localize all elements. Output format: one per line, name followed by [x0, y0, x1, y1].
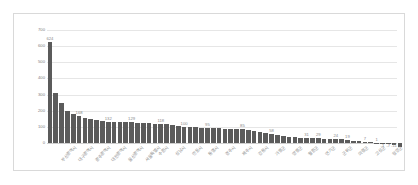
- x-axis-category-label: 경주시: [225, 145, 237, 157]
- x-axis-category-label: 철원군: [308, 145, 320, 157]
- bar: [53, 93, 58, 143]
- chart-frame: 0100200300400500600700 62416813212911810…: [13, 13, 405, 171]
- y-axis-tick-label: 500: [19, 60, 45, 64]
- bar: [246, 130, 251, 143]
- x-axis-category-label: 군위군: [341, 145, 353, 157]
- x-axis-category-label: 광주광역시: [94, 145, 112, 163]
- x-axis-category-label: 대전광역시: [110, 145, 128, 163]
- bar-value-label: 100: [176, 122, 192, 126]
- bar: [345, 140, 350, 143]
- bar: [88, 119, 93, 143]
- bar: [193, 127, 198, 143]
- x-axis-category-label: 제주시: [241, 145, 253, 157]
- bar: [147, 123, 152, 143]
- bar: [112, 122, 117, 143]
- gridline: [47, 62, 397, 63]
- bar-value-label: 129: [124, 117, 140, 121]
- bar: [100, 121, 105, 143]
- bar: [263, 133, 268, 143]
- y-axis-tick-label: 0: [19, 141, 45, 145]
- y-axis-tick-label: 600: [19, 44, 45, 48]
- bar-value-label: 624: [42, 37, 58, 41]
- bar: [211, 128, 216, 143]
- bar: [153, 124, 158, 143]
- bar: [188, 127, 193, 143]
- bar: [65, 111, 70, 143]
- bar-value-label: 118: [153, 119, 169, 123]
- bar: [170, 125, 175, 143]
- bar: [158, 124, 163, 143]
- x-axis-line: [47, 143, 397, 144]
- bar: [199, 128, 204, 143]
- bar: [275, 135, 280, 143]
- bar: [94, 120, 99, 143]
- bar: [304, 138, 309, 143]
- x-axis-category-label: 가평군: [275, 145, 287, 157]
- bar: [240, 129, 245, 143]
- bar: [357, 141, 362, 143]
- plot-area: 6241681321291181009585583129241971-1-7-1…: [47, 30, 397, 143]
- bar-value-label: 29: [310, 133, 326, 137]
- x-axis-category-label: 의령군: [358, 145, 370, 157]
- bar: [71, 114, 76, 143]
- bar-value-label: 132: [100, 117, 116, 121]
- bar: [223, 129, 228, 143]
- bar-value-label: 19: [339, 135, 355, 139]
- bar: [123, 122, 128, 143]
- bar: [234, 129, 239, 143]
- y-axis-tick-label: 200: [19, 109, 45, 113]
- bar: [339, 139, 344, 143]
- y-axis-tick-label: 100: [19, 125, 45, 129]
- x-axis-category-label: 청양군: [391, 145, 403, 157]
- bar: [293, 137, 298, 143]
- bar: [77, 116, 82, 143]
- bar: [228, 129, 233, 143]
- bar: [269, 134, 274, 143]
- x-axis-category-label: 울산광역시: [127, 145, 145, 163]
- bar: [135, 123, 140, 143]
- bar: [182, 127, 187, 143]
- x-axis-labels: 부산광역시대구광역시광주광역시대전광역시울산광역시서울특별시수원시성남시안동시통…: [47, 145, 397, 183]
- bar: [333, 139, 338, 143]
- bar: [322, 139, 327, 143]
- gridline: [47, 46, 397, 47]
- bar: [48, 42, 53, 143]
- bar: [118, 122, 123, 143]
- screenshot-root: 0100200300400500600700 62416813212911810…: [0, 0, 418, 185]
- bar: [374, 143, 379, 144]
- x-axis-category-label: 강릉시: [258, 145, 270, 157]
- y-axis-ticks: 0100200300400500600700: [19, 30, 45, 143]
- bar: [281, 136, 286, 143]
- x-axis-category-label: 안동시: [191, 145, 203, 157]
- bar: [205, 128, 210, 143]
- x-axis-category-label: 부산광역시: [60, 145, 78, 163]
- bar: [83, 118, 88, 143]
- bar-value-label: 58: [264, 129, 280, 133]
- bar-value-label: 168: [71, 111, 87, 115]
- bar-value-label: 85: [234, 124, 250, 128]
- gridline: [47, 95, 397, 96]
- gridline: [47, 111, 397, 112]
- y-axis-tick-label: 300: [19, 93, 45, 97]
- bar-value-label: 1: [369, 138, 385, 142]
- bar: [351, 141, 356, 143]
- bar: [368, 142, 373, 143]
- gridline: [47, 30, 397, 31]
- bar: [363, 142, 368, 143]
- bar: [164, 124, 169, 143]
- bar: [287, 137, 292, 143]
- bar: [252, 131, 257, 143]
- bar: [106, 122, 111, 143]
- gridline: [47, 78, 397, 79]
- y-axis-tick-label: 700: [19, 28, 45, 32]
- bar: [328, 139, 333, 143]
- bar: [258, 132, 263, 143]
- x-axis-category-label: 통영시: [208, 145, 220, 157]
- bar: [59, 103, 64, 143]
- bar: [298, 138, 303, 143]
- bar: [129, 122, 134, 143]
- bar: [310, 138, 315, 143]
- bar: [217, 128, 222, 143]
- bar: [141, 123, 146, 143]
- bar: [176, 126, 181, 143]
